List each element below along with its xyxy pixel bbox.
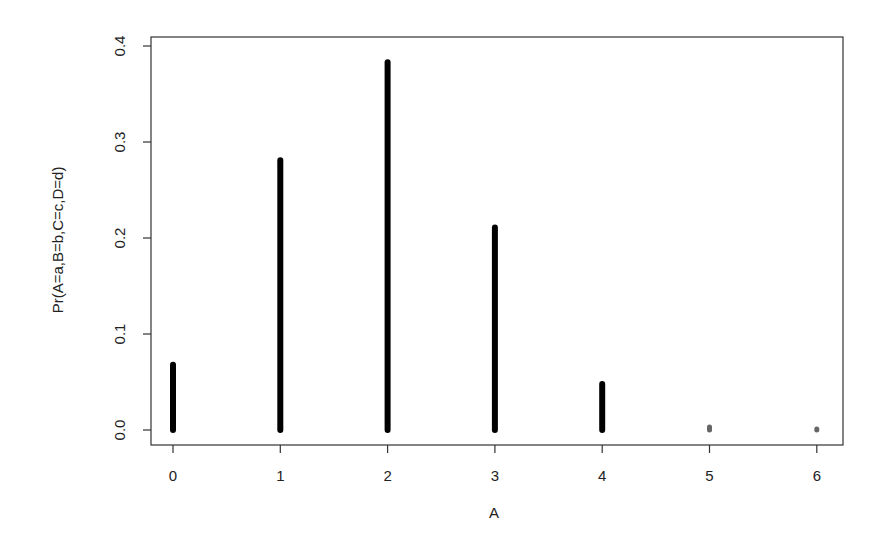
x-tick-label: 2 xyxy=(383,467,391,484)
y-tick-label: 0.4 xyxy=(111,36,128,57)
x-tick-label: 5 xyxy=(705,467,713,484)
bars xyxy=(173,62,817,430)
x-axis: 0123456 xyxy=(169,445,821,484)
x-axis-title: A xyxy=(489,504,499,521)
y-tick-label: 0.1 xyxy=(111,324,128,345)
y-axis-title: Pr(A=a,B=b,C=c,D=d) xyxy=(49,167,66,314)
x-tick-label: 4 xyxy=(598,467,606,484)
y-tick-label: 0.0 xyxy=(111,420,128,441)
y-axis: 0.00.10.20.30.4 xyxy=(111,36,151,441)
x-tick-label: 1 xyxy=(276,467,284,484)
y-tick-label: 0.3 xyxy=(111,132,128,153)
y-tick-label: 0.2 xyxy=(111,228,128,249)
x-tick-label: 0 xyxy=(169,467,177,484)
x-tick-label: 6 xyxy=(813,467,821,484)
chart: 0.00.10.20.30.4 0123456 A Pr(A=a,B=b,C=c… xyxy=(0,0,887,538)
x-tick-label: 3 xyxy=(491,467,499,484)
